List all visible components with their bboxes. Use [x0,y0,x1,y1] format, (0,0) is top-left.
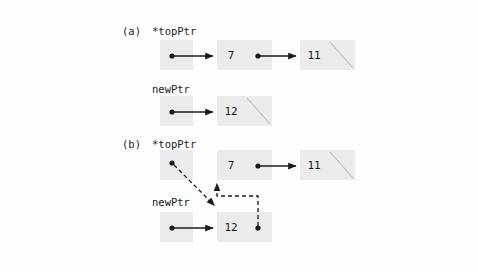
pointer-dot-topptr-b [169,160,174,165]
null-slash-node12-a [247,98,270,124]
dashed-arrow-topptr-to-node12-b [174,165,214,205]
null-slash-node11-a [330,42,353,68]
null-slash-node11-b [330,152,353,178]
pointer-dot-node12-next-b [255,225,260,230]
arrow-overlay [0,0,478,273]
dashed-arrow-node12-to-node7-b [217,184,258,226]
linked-list-diagram: (a) *topPtr 7 11 newPtr 12 (b) *topPtr 7… [0,0,478,273]
